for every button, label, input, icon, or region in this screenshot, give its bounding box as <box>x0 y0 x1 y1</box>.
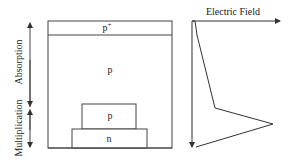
p-multiplication-label: p <box>108 110 113 121</box>
n-layer-label: n <box>107 133 112 144</box>
device-structure <box>48 21 172 148</box>
p-absorption-label: p <box>108 64 113 75</box>
absorption-region-label: Absorption <box>13 40 24 85</box>
field-profile-curve <box>192 21 273 147</box>
multiplication-region-label: Multiplication <box>13 99 24 156</box>
electric-field-plot <box>192 21 280 147</box>
p-plus-label: p+ <box>103 21 112 33</box>
diagram-canvas: p+ p p n Absorption Multiplication Elect… <box>0 0 288 163</box>
electric-field-label: Electric Field <box>206 6 260 17</box>
